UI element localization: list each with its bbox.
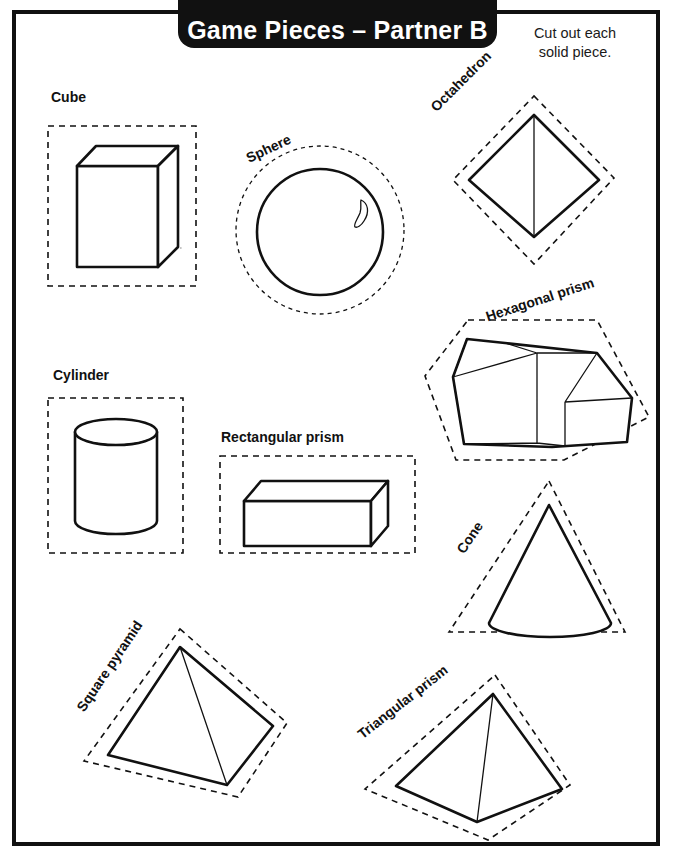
triangular-prism-drawing (333, 672, 573, 847)
square-pyramid-body (108, 647, 273, 785)
shape-label-cube: Cube (51, 90, 86, 104)
cube-drawing (47, 90, 232, 295)
title-banner: Game Pieces – Partner B (178, 0, 497, 48)
hexagonal-prism-body (453, 339, 632, 447)
cone-body (489, 505, 611, 637)
instructions-text: Cut out each solid piece. (510, 24, 640, 62)
page-title: Game Pieces – Partner B (187, 18, 488, 43)
figure-cone: Cone (440, 478, 630, 648)
sphere-body (257, 169, 383, 295)
figure-octahedron: Octahedron (420, 92, 620, 292)
instructions-line-1: Cut out each (510, 24, 640, 43)
square-pyramid-drawing (62, 622, 297, 807)
hexagonal-prism-drawing (420, 290, 660, 475)
figure-sphere: Sphere (230, 140, 420, 330)
cube-front-face (77, 166, 158, 267)
octahedron-drawing (420, 92, 620, 292)
worksheet-page: Game Pieces – Partner B Cut out each sol… (0, 0, 680, 863)
cone-drawing (440, 478, 630, 648)
cylinder-drawing (47, 368, 207, 560)
figure-triangular-prism: Triangular prism (333, 672, 573, 847)
shape-label-cylinder: Cylinder (53, 368, 109, 382)
sphere-drawing (230, 140, 420, 330)
rectangular-prism-drawing (219, 430, 419, 555)
rectangular-prism-top-face (244, 481, 388, 501)
cube-right-face (158, 146, 178, 267)
figure-square-pyramid: Square pyramid (62, 622, 297, 807)
figure-cube: Cube (47, 90, 232, 295)
instructions-line-2: solid piece. (510, 43, 640, 62)
figure-rectangular-prism: Rectangular prism (219, 430, 419, 555)
cylinder-body (75, 432, 157, 534)
rectangular-prism-front-face (244, 501, 371, 546)
figure-hexagonal-prism: Hexagonal prism (420, 290, 660, 475)
shape-label-rectangular-prism: Rectangular prism (221, 430, 344, 444)
figure-cylinder: Cylinder (47, 368, 207, 560)
